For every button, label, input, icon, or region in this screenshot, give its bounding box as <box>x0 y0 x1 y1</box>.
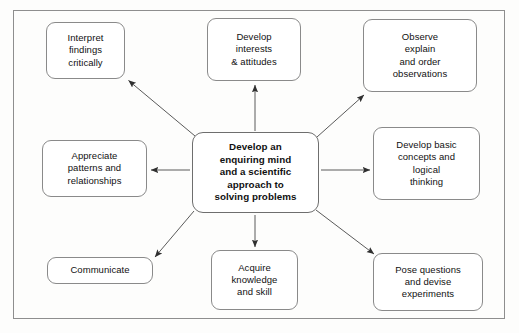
node-acquire-knowledge[interactable]: Acquire knowledge and skill <box>211 250 298 310</box>
diagram-canvas: Interpret findings critically Develop in… <box>0 0 519 333</box>
node-develop-interests[interactable]: Develop interests & attitudes <box>207 18 301 81</box>
node-observe-explain-label: Observe explain and order observations <box>390 31 450 80</box>
node-communicate-label: Communicate <box>67 264 132 276</box>
node-pose-questions-label: Pose questions and devise experiments <box>392 264 464 301</box>
node-center-label: Develop an enquiring mind and a scientif… <box>212 141 300 204</box>
node-acquire-knowledge-label: Acquire knowledge and skill <box>229 262 281 299</box>
arrow-center-to-interpret-findings <box>129 81 196 137</box>
node-develop-interests-label: Develop interests & attitudes <box>228 31 279 68</box>
arrow-center-to-communicate <box>155 211 194 257</box>
arrow-center-to-observe-explain <box>317 95 364 137</box>
node-interpret-findings[interactable]: Interpret findings critically <box>46 22 125 79</box>
node-pose-questions[interactable]: Pose questions and devise experiments <box>373 253 483 311</box>
node-appreciate-patterns[interactable]: Appreciate patterns and relationships <box>42 140 147 197</box>
node-communicate[interactable]: Communicate <box>47 257 153 284</box>
node-center-enquiring-mind[interactable]: Develop an enquiring mind and a scientif… <box>192 132 319 213</box>
node-develop-concepts[interactable]: Develop basic concepts and logical think… <box>373 127 480 200</box>
node-interpret-findings-label: Interpret findings critically <box>65 32 107 69</box>
node-develop-concepts-label: Develop basic concepts and logical think… <box>393 139 459 188</box>
node-observe-explain[interactable]: Observe explain and order observations <box>363 19 477 92</box>
arrow-center-to-pose-questions <box>316 210 374 254</box>
node-appreciate-patterns-label: Appreciate patterns and relationships <box>65 150 125 187</box>
